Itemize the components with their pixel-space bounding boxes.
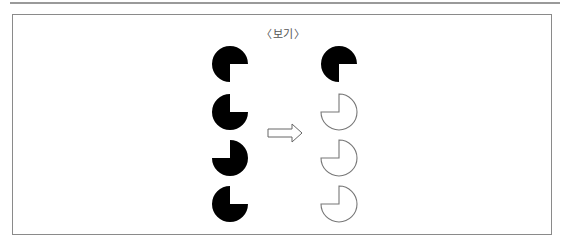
- right-shape-1-icon: [321, 46, 357, 82]
- shape-diagram: [0, 0, 566, 250]
- right-shape-2-icon: [321, 94, 357, 130]
- left-column: [212, 46, 248, 222]
- left-shape-2-icon: [212, 94, 248, 130]
- right-arrow-icon: [268, 124, 302, 142]
- right-shape-4-icon: [321, 186, 357, 222]
- left-shape-1-icon: [212, 46, 248, 82]
- left-shape-4-icon: [212, 186, 248, 222]
- right-shape-3-icon: [321, 140, 357, 176]
- right-column: [321, 46, 357, 222]
- left-shape-3-icon: [212, 140, 248, 176]
